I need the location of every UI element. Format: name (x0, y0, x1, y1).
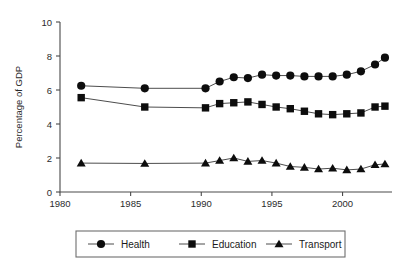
series-line-health (81, 58, 385, 89)
y-tick-label: 10 (41, 17, 52, 28)
data-point (343, 71, 351, 79)
x-tick-label: 1995 (261, 198, 282, 209)
y-tick-label: 6 (47, 85, 52, 96)
y-tick-label: 0 (47, 187, 52, 198)
x-tick-label: 2000 (332, 198, 353, 209)
data-point (300, 72, 308, 80)
data-point (329, 111, 336, 118)
line-chart: 024681019801985199019952000Percentage of… (0, 0, 407, 272)
x-tick-label: 1985 (120, 198, 141, 209)
series-education (77, 94, 388, 118)
data-point (141, 84, 149, 92)
series-transport (77, 154, 390, 174)
legend-marker-circle-icon (97, 240, 105, 248)
data-point (230, 99, 237, 106)
data-point (258, 71, 266, 79)
data-point (381, 102, 388, 109)
x-tick-label: 1980 (49, 198, 70, 209)
data-point (202, 104, 209, 111)
data-point (77, 94, 84, 101)
data-point (244, 74, 252, 82)
data-point (77, 159, 86, 167)
data-point (315, 110, 322, 117)
data-point (301, 108, 308, 115)
y-tick-label: 2 (47, 153, 52, 164)
data-point (141, 103, 148, 110)
y-tick-label: 4 (47, 119, 52, 130)
data-point (357, 67, 365, 75)
legend-marker-square-icon (188, 240, 195, 247)
data-point (230, 73, 238, 81)
data-point (286, 71, 294, 79)
y-tick-label: 8 (47, 51, 52, 62)
chart-axes (60, 22, 392, 192)
data-point (357, 109, 364, 116)
series-health (77, 54, 389, 93)
data-point (77, 82, 85, 90)
data-point (229, 154, 238, 162)
data-point (244, 98, 251, 105)
data-point (343, 110, 350, 117)
data-point (380, 160, 389, 168)
chart-container: 024681019801985199019952000Percentage of… (0, 0, 407, 272)
chart-legend: HealthEducationTransport (76, 231, 345, 257)
data-point (258, 156, 267, 164)
y-axis-title: Percentage of GDP (13, 66, 24, 148)
data-point (258, 101, 265, 108)
data-point (216, 77, 224, 85)
data-point (371, 103, 378, 110)
legend-label-education: Education (212, 239, 256, 250)
data-point (287, 105, 294, 112)
data-point (328, 164, 337, 172)
x-tick-label: 1990 (191, 198, 212, 209)
data-point (272, 71, 280, 79)
legend-label-health: Health (121, 239, 150, 250)
data-point (216, 100, 223, 107)
data-point (201, 84, 209, 92)
data-point (329, 72, 337, 80)
data-point (381, 54, 389, 62)
data-point (314, 72, 322, 80)
data-point (272, 103, 279, 110)
data-point (371, 60, 379, 68)
legend-label-transport: Transport (299, 239, 342, 250)
